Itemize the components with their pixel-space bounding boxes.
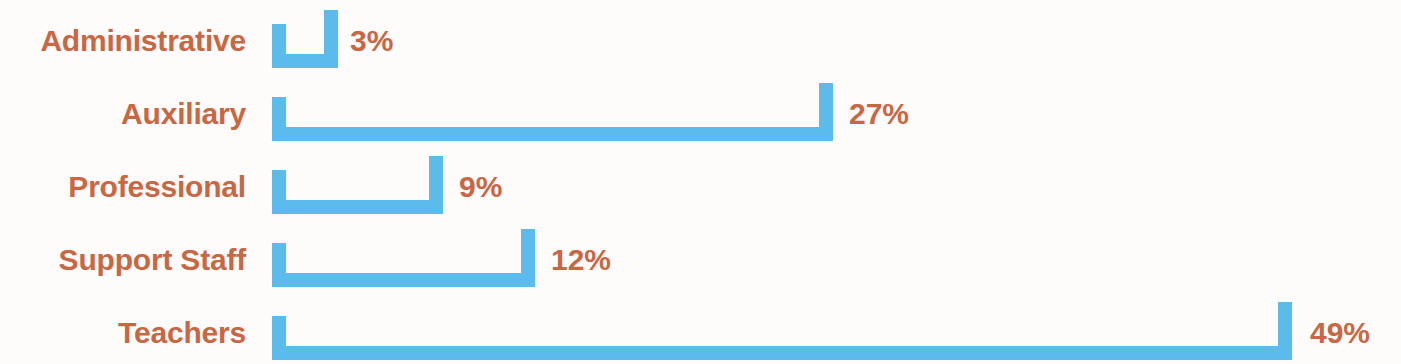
bar-start-cap <box>272 243 286 287</box>
bar-start-cap <box>272 170 286 214</box>
bar-baseline <box>272 127 833 141</box>
bar-professional <box>272 148 443 221</box>
bar-end-cap <box>429 156 443 214</box>
value-label-teachers: 49% <box>1310 318 1370 348</box>
category-label-professional: Professional <box>0 172 246 202</box>
bar-baseline <box>272 273 535 287</box>
horizontal-bar-chart: Administrative3%Auxiliary27%Professional… <box>0 0 1401 364</box>
chart-row: Auxiliary27% <box>0 75 1401 148</box>
bar-support-staff <box>272 221 535 294</box>
bar-start-cap <box>272 24 286 68</box>
category-label-auxiliary: Auxiliary <box>0 99 246 129</box>
bar-end-cap <box>1278 302 1292 360</box>
bar-start-cap <box>272 316 286 360</box>
bar-auxiliary <box>272 75 833 148</box>
bar-baseline <box>272 200 443 214</box>
bar-end-cap <box>324 10 338 68</box>
bar-teachers <box>272 294 1292 364</box>
value-label-administrative: 3% <box>350 26 393 56</box>
bar-end-cap <box>819 83 833 141</box>
category-label-teachers: Teachers <box>0 318 246 348</box>
bar-end-cap <box>521 229 535 287</box>
chart-row: Administrative3% <box>0 2 1401 75</box>
chart-row: Teachers49% <box>0 294 1401 364</box>
chart-row: Professional9% <box>0 148 1401 221</box>
value-label-auxiliary: 27% <box>849 99 909 129</box>
chart-row: Support Staff12% <box>0 221 1401 294</box>
bar-start-cap <box>272 97 286 141</box>
value-label-professional: 9% <box>459 172 502 202</box>
value-label-support-staff: 12% <box>551 245 611 275</box>
category-label-administrative: Administrative <box>0 26 246 56</box>
bar-administrative <box>272 2 338 75</box>
category-label-support-staff: Support Staff <box>0 245 246 275</box>
bar-baseline <box>272 346 1292 360</box>
